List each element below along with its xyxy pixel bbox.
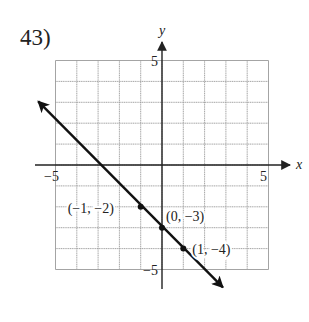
problem-number: 43) bbox=[20, 25, 51, 50]
point-marker bbox=[138, 204, 144, 210]
point-label: (−1, −2) bbox=[68, 201, 114, 217]
y-tick-label: 5 bbox=[151, 54, 158, 69]
x-axis-label: x bbox=[295, 157, 303, 172]
line-y-equals-neg-x-minus-3 bbox=[38, 101, 223, 287]
axes: xy bbox=[35, 23, 303, 289]
labeled-points: (−1, −2)(0, −3)(1, −4) bbox=[68, 201, 231, 258]
graphed-line bbox=[38, 101, 223, 287]
point-marker bbox=[159, 225, 165, 231]
point-label: (0, −3) bbox=[166, 209, 205, 225]
point-label: (1, −4) bbox=[192, 242, 231, 258]
point-marker bbox=[180, 246, 186, 252]
coordinate-plane: 43) xy −555−5 (−1, −2)(0, −3)(1, −4) bbox=[0, 0, 309, 322]
y-tick-label: −5 bbox=[143, 263, 158, 278]
x-tick-label: 5 bbox=[260, 169, 267, 184]
x-tick-label: −5 bbox=[44, 169, 59, 184]
y-axis-label: y bbox=[157, 23, 166, 38]
